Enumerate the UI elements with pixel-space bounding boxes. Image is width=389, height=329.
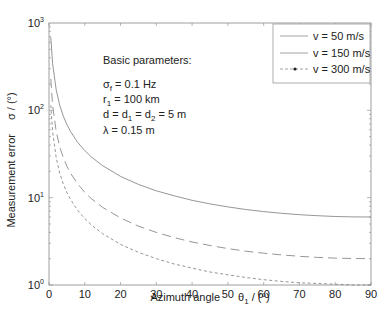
x-tick-label: 0: [46, 288, 52, 300]
x-tick-label: 50: [222, 288, 234, 300]
y-tick-label: 102: [28, 103, 44, 116]
annotation-lambda: λ = 0.15 m: [103, 124, 155, 136]
x-axis-label: Azimuth angleθ1 / (°): [150, 291, 269, 306]
y-tick-label: 100: [28, 278, 44, 291]
y-tick-label: 103: [28, 16, 44, 29]
svg-text:v = 150 m/s: v = 150 m/s: [313, 47, 371, 59]
legend-marker-dot: [293, 67, 296, 70]
svg-text:v = 300 m/s: v = 300 m/s: [313, 63, 371, 75]
x-tick-label: 90: [365, 288, 377, 300]
y-axis-label: Measurement errorσ / (°): [5, 92, 17, 227]
x-tick-label: 10: [79, 288, 91, 300]
annotation-title: Basic parameters:: [103, 54, 192, 66]
y-tick-label: 101: [28, 191, 44, 204]
x-tick-label: 70: [293, 288, 305, 300]
x-tick-label: 80: [329, 288, 341, 300]
svg-text:v = 50 m/s: v = 50 m/s: [313, 30, 365, 42]
x-tick-label: 20: [114, 288, 126, 300]
line-chart: 0102030405060708090 100101102103 Azimuth…: [0, 0, 389, 329]
y-tick-labels: 100101102103: [28, 16, 44, 291]
legend: v = 50 m/s v = 150 m/s v = 300 m/s: [273, 24, 371, 83]
